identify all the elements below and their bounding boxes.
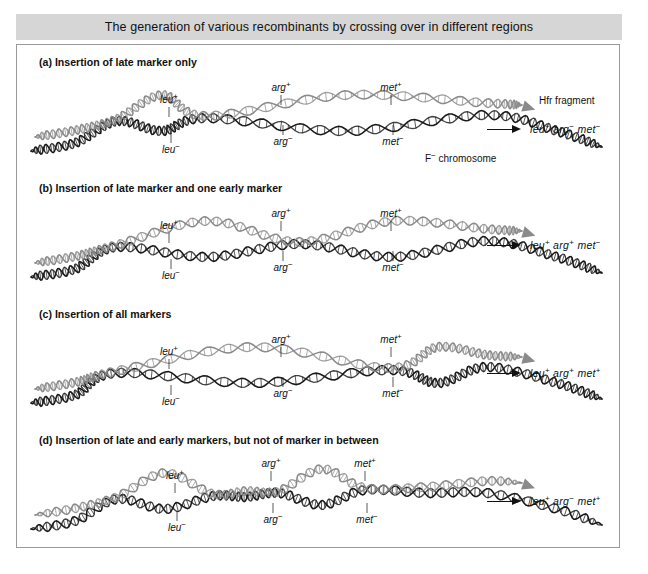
figure-title-band: The generation of various recombinants b… [16, 14, 622, 40]
hfr-fragment-arrowhead [521, 352, 537, 367]
figure-frame: (a) Insertion of late marker only leu+le… [16, 44, 620, 548]
hfr-fragment-arrowhead [521, 100, 537, 115]
result-arrow-icon [487, 125, 521, 134]
result-row-c: leu+ arg+ met+ [487, 367, 601, 379]
marker-label-arg-minus: arg− [273, 263, 292, 273]
marker-label-arg-plus: arg+ [271, 335, 290, 345]
marker-label-leu-minus: leu− [162, 145, 180, 155]
marker-label-leu-plus: leu+ [160, 95, 178, 105]
marker-label-arg-plus: arg+ [271, 83, 290, 93]
marker-label-met-plus: met+ [380, 209, 401, 219]
marker-label-leu-plus: leu+ [160, 221, 178, 231]
hfr-fragment-label: Hfr fragment [539, 95, 595, 106]
panel-b: (b) Insertion of late marker and one ear… [17, 171, 621, 297]
marker-label-met-minus: met− [382, 263, 403, 273]
marker-label-met-minus: met− [356, 515, 377, 525]
result-row-d: leu+ arg− met+ [487, 495, 601, 507]
marker-label-met-plus: met+ [354, 459, 375, 469]
marker-label-met-minus: met− [382, 389, 403, 399]
marker-label-arg-minus: arg− [273, 389, 292, 399]
result-genotype-b: leu+ arg+ met− [530, 239, 601, 251]
marker-label-leu-minus: leu− [162, 397, 180, 407]
result-arrow-icon [487, 497, 521, 506]
panel-b-diagram: leu+leu−arg+arg−met+met−leu+ arg+ met− [17, 171, 621, 297]
figure-title: The generation of various recombinants b… [105, 20, 533, 34]
hfr-fragment-arrowhead [521, 478, 537, 493]
marker-label-arg-minus: arg− [273, 137, 292, 147]
marker-label-met-minus: met− [382, 137, 403, 147]
marker-label-leu-minus: leu− [162, 271, 180, 281]
marker-label-arg-plus: arg+ [271, 209, 290, 219]
dna-crossover-graphic-d [17, 423, 621, 549]
panel-d-diagram: leu+leu−arg+arg−met+met−leu+ arg− met+ [17, 423, 621, 549]
result-genotype-a: leu+ arg− met− [530, 123, 601, 135]
result-genotype-d: leu+ arg− met+ [530, 495, 601, 507]
marker-label-leu-plus: leu+ [160, 347, 178, 357]
marker-label-leu-minus: leu− [168, 523, 186, 533]
marker-label-arg-minus: arg− [263, 515, 282, 525]
panel-a-diagram: leu+leu−arg+arg−met+met−leu+ arg− met−Hf… [17, 45, 621, 171]
panel-a: (a) Insertion of late marker only leu+le… [17, 45, 621, 171]
result-genotype-c: leu+ arg+ met+ [530, 367, 601, 379]
panel-d: (d) Insertion of late and early markers,… [17, 423, 621, 549]
panel-c: (c) Insertion of all markers leu+leu−arg… [17, 297, 621, 423]
dna-crossover-graphic-c [17, 297, 621, 423]
marker-label-leu-plus: leu+ [166, 471, 184, 481]
panel-c-diagram: leu+leu−arg+arg−met+met−leu+ arg+ met+ [17, 297, 621, 423]
result-row-b: leu+ arg+ met− [487, 239, 601, 251]
f-chromosome-label: F− chromosome [425, 153, 496, 164]
result-row-a: leu+ arg− met− [487, 123, 601, 135]
marker-label-arg-plus: arg+ [261, 459, 280, 469]
result-arrow-icon [487, 241, 521, 250]
marker-label-met-plus: met+ [380, 83, 401, 93]
marker-label-met-plus: met+ [380, 335, 401, 345]
result-arrow-icon [487, 369, 521, 378]
dna-crossover-graphic-a [17, 45, 621, 171]
dna-crossover-graphic-b [17, 171, 621, 297]
